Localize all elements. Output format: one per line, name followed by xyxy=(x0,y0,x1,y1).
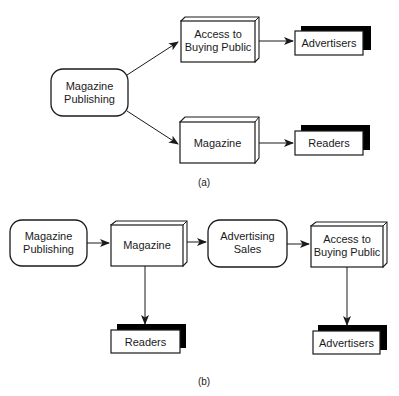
node-readers-b: Readers xyxy=(111,324,186,353)
node-label: Advertisers xyxy=(301,37,357,49)
node-label: Magazine xyxy=(25,230,73,242)
node-label: Access to xyxy=(194,28,242,40)
node-magazine-a: Magazine xyxy=(180,117,259,163)
node-label: Access to xyxy=(323,233,371,245)
node-access-buying-public-a: Access to Buying Public xyxy=(181,17,259,62)
node-magazine-b: Magazine xyxy=(111,221,187,266)
node-label: Advertisers xyxy=(319,337,375,349)
caption-a: (a) xyxy=(198,177,210,188)
node-label: Sales xyxy=(234,243,262,255)
node-advertising-sales: Advertising Sales xyxy=(208,220,287,267)
node-label: Magazine xyxy=(66,80,114,92)
diagram-canvas: Magazine Publishing Access to Buying Pub… xyxy=(0,0,399,396)
node-magazine-publishing-b: Magazine Publishing xyxy=(10,220,87,266)
node-label: Publishing xyxy=(23,243,74,255)
node-label: Magazine xyxy=(123,239,171,251)
node-label: Publishing xyxy=(64,93,115,105)
diagram-a: Magazine Publishing Access to Buying Pub… xyxy=(51,17,371,188)
node-label: Readers xyxy=(125,336,167,348)
diagram-b: Magazine Publishing Magazine Advertising… xyxy=(10,220,387,387)
node-label: Buying Public xyxy=(314,246,381,258)
node-label: Buying Public xyxy=(185,41,252,53)
node-advertisers-b: Advertisers xyxy=(313,325,387,354)
node-advertisers-a: Advertisers xyxy=(295,26,371,55)
edge-publishing-to-access xyxy=(127,42,178,75)
edge-publishing-to-magazine xyxy=(127,111,178,144)
caption-b: (b) xyxy=(198,376,210,387)
node-label: Advertising xyxy=(220,230,274,242)
node-label: Magazine xyxy=(194,137,242,149)
node-label: Readers xyxy=(308,137,350,149)
node-readers-a: Readers xyxy=(295,125,370,155)
node-magazine-publishing-a: Magazine Publishing xyxy=(51,69,128,116)
node-access-buying-public-b: Access to Buying Public xyxy=(311,222,387,267)
